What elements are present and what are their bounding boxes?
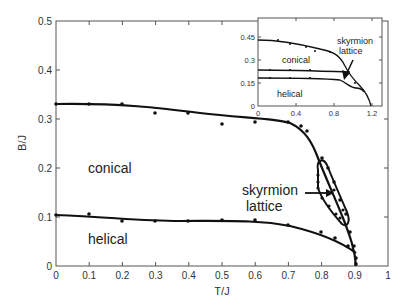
- region-label-skyrmion-2: lattice: [246, 198, 283, 214]
- svg-text:0.1: 0.1: [38, 212, 52, 223]
- svg-text:0.7: 0.7: [281, 270, 295, 281]
- svg-text:0.2: 0.2: [38, 163, 52, 174]
- svg-text:0: 0: [46, 261, 52, 272]
- svg-text:0.3: 0.3: [38, 114, 52, 125]
- region-label-conical: conical: [88, 160, 132, 176]
- svg-text:0.2: 0.2: [115, 270, 129, 281]
- x-tick-labels: 0 0.1 0.2 0.3 0.4 0.5 0.6 0.7 0.8 0.9 1: [53, 270, 391, 281]
- inset-label-conical: conical: [282, 55, 310, 65]
- svg-text:0.5: 0.5: [38, 16, 52, 27]
- svg-text:0.6: 0.6: [248, 270, 262, 281]
- phase-diagram: 0 0.1 0.2 0.3 0.4 0.5 0.6 0.7 0.8 0.9 1 …: [0, 0, 403, 308]
- inset-label-helical: helical: [277, 89, 303, 99]
- svg-text:0.4: 0.4: [38, 65, 52, 76]
- svg-text:0.15: 0.15: [240, 79, 255, 88]
- svg-text:1: 1: [385, 270, 391, 281]
- inset-plot: 0 0.15 0.3 0.45 0 0.4 0.8 1.2 conical he…: [240, 18, 382, 118]
- svg-text:0.4: 0.4: [291, 109, 301, 118]
- inset-label-skyrmion-2: lattice: [339, 46, 363, 56]
- svg-text:0.5: 0.5: [215, 270, 229, 281]
- region-label-helical: helical: [88, 231, 128, 247]
- svg-text:0.4: 0.4: [182, 270, 196, 281]
- y-tick-labels: 0 0.1 0.2 0.3 0.4 0.5: [38, 16, 52, 272]
- region-label-skyrmion-1: skyrmion: [242, 182, 298, 198]
- svg-text:0.3: 0.3: [149, 270, 163, 281]
- svg-text:0.8: 0.8: [329, 109, 339, 118]
- svg-text:0: 0: [53, 270, 59, 281]
- svg-text:0: 0: [251, 102, 255, 111]
- svg-text:0.8: 0.8: [315, 270, 329, 281]
- inset-label-skyrmion-1: skyrmion: [337, 36, 373, 46]
- svg-text:0.9: 0.9: [348, 270, 362, 281]
- svg-text:0.45: 0.45: [240, 33, 255, 42]
- svg-text:0.1: 0.1: [82, 270, 96, 281]
- svg-text:0: 0: [256, 109, 260, 118]
- svg-text:1.2: 1.2: [367, 109, 377, 118]
- x-axis-label: T/J: [214, 285, 229, 297]
- y-axis-label: B/J: [16, 135, 28, 151]
- svg-text:0.3: 0.3: [245, 56, 255, 65]
